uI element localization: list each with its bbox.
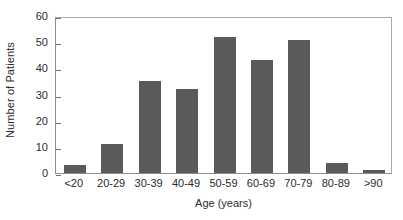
bar <box>176 89 198 173</box>
bar <box>139 81 161 173</box>
x-axis-tick-label: 80-89 <box>317 176 354 190</box>
plot-area <box>55 17 392 174</box>
bar <box>214 37 236 173</box>
bar <box>363 170 385 173</box>
y-axis-tick-label: 10 <box>22 142 48 153</box>
x-axis-tick-label: 30-39 <box>130 176 167 190</box>
x-axis-tick-label: 70-79 <box>280 176 317 190</box>
bar <box>251 60 273 173</box>
x-axis-tick-label: 60-69 <box>242 176 279 190</box>
x-axis-tick-label: <20 <box>55 176 92 190</box>
y-axis-tick-label: 40 <box>22 63 48 74</box>
bar <box>64 165 86 173</box>
y-axis-tick-label: 0 <box>22 168 48 179</box>
y-axis-tick-label: 30 <box>22 90 48 101</box>
x-axis-tick-label: 20-29 <box>92 176 129 190</box>
y-axis-tick-label: 60 <box>22 11 48 22</box>
y-axis-tick-labels: 0102030405060 <box>22 0 48 220</box>
bar <box>326 163 348 173</box>
bar <box>288 40 310 173</box>
bars-group <box>56 18 391 173</box>
y-axis-tick-label: 20 <box>22 116 48 127</box>
x-axis-title: Age (years) <box>55 196 392 210</box>
y-axis-title: Number of Patients <box>2 2 18 178</box>
x-axis-tick-label: 50-59 <box>205 176 242 190</box>
y-axis-tick-label: 50 <box>22 37 48 48</box>
bar-chart: Number of Patients 0102030405060 <2020-2… <box>0 0 403 220</box>
x-axis-tick-labels: <2020-2930-3940-4950-5960-6970-7980-89>9… <box>55 176 392 192</box>
x-axis-tick-label: >90 <box>355 176 392 190</box>
bar <box>101 144 123 173</box>
x-axis-tick-label: 40-49 <box>167 176 204 190</box>
